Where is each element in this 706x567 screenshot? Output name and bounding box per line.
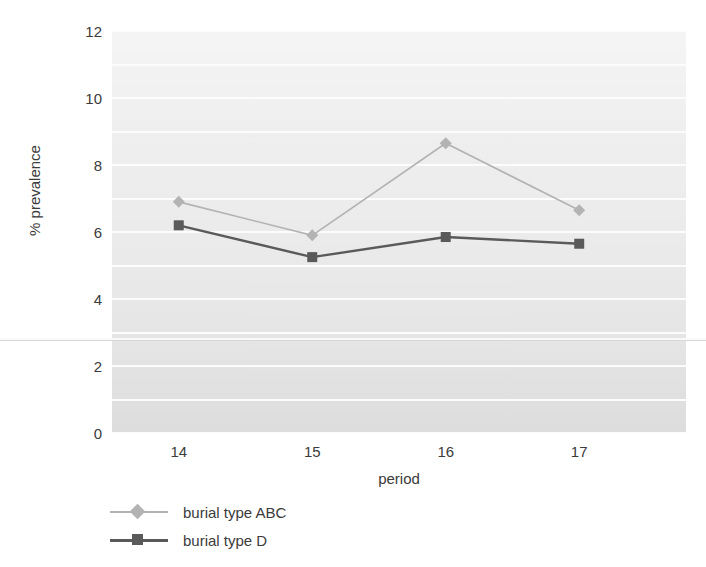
series-line bbox=[179, 143, 579, 235]
legend-item-burial-type-d: burial type D bbox=[108, 526, 408, 554]
legend-item-burial-type-abc: burial type ABC bbox=[108, 498, 408, 526]
x-axis-tick-labels: 14151617 bbox=[112, 443, 686, 467]
square-marker-icon bbox=[174, 220, 184, 230]
line-chart-figure: 024681012 14151617 period % prevalence b… bbox=[0, 0, 706, 567]
legend-key-square bbox=[108, 530, 170, 550]
y-tick-label: 12 bbox=[62, 23, 102, 40]
y-tick-label: 0 bbox=[62, 425, 102, 442]
legend-label-abc: burial type ABC bbox=[170, 504, 286, 521]
diamond-marker-icon bbox=[130, 504, 146, 520]
square-marker-icon bbox=[574, 239, 584, 249]
data-series-layer bbox=[112, 31, 686, 433]
series-d bbox=[174, 220, 584, 262]
y-axis-title: % prevalence bbox=[26, 121, 43, 261]
y-tick-label: 4 bbox=[62, 291, 102, 308]
x-tick-label: 14 bbox=[149, 443, 209, 460]
series-line bbox=[179, 225, 579, 257]
x-tick-label: 17 bbox=[549, 443, 609, 460]
square-marker-icon bbox=[441, 232, 451, 242]
diamond-marker-icon bbox=[573, 204, 585, 216]
y-tick-label: 8 bbox=[62, 157, 102, 174]
y-tick-label: 2 bbox=[62, 358, 102, 375]
legend: burial type ABC burial type D bbox=[108, 498, 408, 554]
legend-key-diamond bbox=[108, 502, 170, 522]
series-abc bbox=[173, 137, 585, 241]
diamond-marker-icon bbox=[440, 137, 452, 149]
y-tick-label: 6 bbox=[62, 224, 102, 241]
x-tick-label: 16 bbox=[416, 443, 476, 460]
y-tick-label: 10 bbox=[62, 90, 102, 107]
legend-label-d: burial type D bbox=[170, 532, 267, 549]
diamond-marker-icon bbox=[306, 229, 318, 241]
x-tick-label: 15 bbox=[282, 443, 342, 460]
y-axis-tick-labels: 024681012 bbox=[62, 31, 102, 433]
x-axis-title: period bbox=[112, 470, 686, 487]
square-marker-icon bbox=[132, 534, 143, 545]
square-marker-icon bbox=[307, 252, 317, 262]
diamond-marker-icon bbox=[173, 196, 185, 208]
